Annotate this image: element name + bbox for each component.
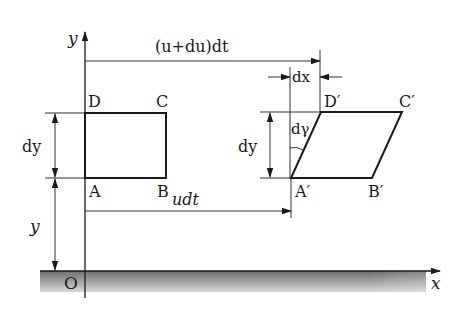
y-axis-label: y — [67, 28, 78, 48]
vertex-d: D — [88, 92, 101, 111]
vertex-b-prime: B′ — [368, 182, 384, 201]
top-displacement-dimension: (u+du)dt — [85, 37, 320, 112]
vertex-b: B — [157, 182, 169, 201]
bottom-displacement-label: udt — [172, 190, 200, 209]
vertex-a: A — [88, 182, 101, 201]
bottom-displacement-dimension: udt — [85, 178, 291, 218]
vertex-d-prime: D′ — [324, 92, 341, 111]
shift-label: dx — [292, 68, 311, 86]
origin-label: O — [64, 273, 78, 293]
left-height-dimensions: dy y — [22, 113, 85, 270]
height-right-label: dy — [238, 137, 257, 156]
top-displacement-label: (u+du)dt — [155, 37, 229, 56]
vertex-a-prime: A′ — [294, 182, 311, 201]
vertex-c: C — [156, 92, 168, 111]
shear-angle-label: dγ — [291, 120, 310, 138]
x-axis-label: x — [431, 273, 441, 293]
original-element — [85, 113, 166, 178]
height-left-label: dy — [22, 137, 41, 156]
shear-diagram: x y O A B C D A′ B′ C′ D′ (u+du)dt dx ud… — [0, 0, 461, 312]
vertex-c-prime: C′ — [399, 92, 415, 111]
elevation-label: y — [29, 216, 40, 236]
ground — [40, 271, 426, 292]
